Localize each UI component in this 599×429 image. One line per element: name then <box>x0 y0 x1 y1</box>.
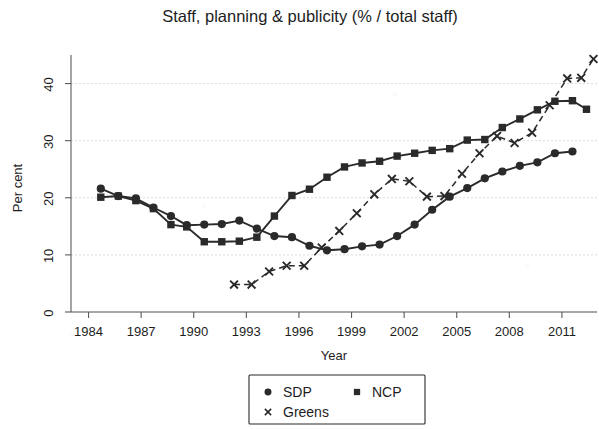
x-tick-label-1999: 1999 <box>337 324 366 339</box>
data-point-sdp-24 <box>516 162 524 170</box>
data-point-ncp-8 <box>236 237 243 244</box>
data-point-ncp-9 <box>253 233 260 240</box>
data-point-sdp-8 <box>235 217 243 225</box>
data-point-ncp-18 <box>411 150 418 157</box>
data-point-sdp-17 <box>393 232 401 240</box>
data-point-ncp-1 <box>115 192 122 199</box>
legend-marker-sdp <box>265 389 272 396</box>
data-point-sdp-12 <box>305 242 313 250</box>
data-point-ncp-7 <box>218 238 225 245</box>
x-tick-label-1987: 1987 <box>127 324 156 339</box>
data-point-ncp-20 <box>446 145 453 152</box>
data-point-ncp-4 <box>167 221 174 228</box>
data-point-sdp-18 <box>411 221 419 229</box>
staff-planning-publicity-chart: Staff, planning & publicity (% / total s… <box>0 0 599 429</box>
chart-title: Staff, planning & publicity (% / total s… <box>162 7 458 25</box>
chart-container: Staff, planning & publicity (% / total s… <box>0 0 599 429</box>
data-point-sdp-14 <box>340 245 348 253</box>
data-point-sdp-25 <box>533 158 541 166</box>
data-point-sdp-23 <box>498 167 506 175</box>
y-tick-label-20: 20 <box>41 192 56 206</box>
x-tick-label-2002: 2002 <box>390 324 419 339</box>
data-point-ncp-17 <box>393 152 400 159</box>
data-point-ncp-11 <box>288 192 295 199</box>
data-point-ncp-28 <box>583 106 590 113</box>
data-point-ncp-25 <box>534 106 541 113</box>
data-point-sdp-21 <box>463 184 471 192</box>
data-point-ncp-2 <box>132 197 139 204</box>
data-point-sdp-10 <box>270 232 278 240</box>
data-point-ncp-21 <box>464 136 471 143</box>
chart-background <box>0 0 599 429</box>
x-tick-label-2011: 2011 <box>548 324 576 339</box>
data-point-ncp-13 <box>323 174 330 181</box>
data-point-ncp-6 <box>201 238 208 245</box>
data-point-sdp-19 <box>428 206 436 214</box>
data-point-ncp-19 <box>428 147 435 154</box>
x-tick-label-2005: 2005 <box>442 324 471 339</box>
data-point-ncp-16 <box>376 158 383 165</box>
data-point-sdp-7 <box>218 220 226 228</box>
data-point-ncp-24 <box>516 115 523 122</box>
legend-marker-ncp <box>354 389 360 395</box>
legend-label-greens: Greens <box>283 404 329 420</box>
data-point-sdp-27 <box>568 147 576 155</box>
data-point-ncp-10 <box>271 212 278 219</box>
y-tick-label-0: 0 <box>41 309 56 316</box>
data-point-ncp-22 <box>481 136 488 143</box>
data-point-sdp-9 <box>253 225 261 233</box>
x-tick-label-1984: 1984 <box>74 324 103 339</box>
x-tick-label-1996: 1996 <box>284 324 313 339</box>
data-point-ncp-23 <box>499 124 506 131</box>
data-point-sdp-11 <box>288 233 296 241</box>
data-point-sdp-6 <box>200 221 208 229</box>
x-tick-label-1993: 1993 <box>232 324 261 339</box>
x-tick-label-1990: 1990 <box>179 324 208 339</box>
y-tick-label-30: 30 <box>41 134 56 148</box>
data-point-sdp-16 <box>375 241 383 249</box>
data-point-ncp-15 <box>358 159 365 166</box>
data-point-sdp-22 <box>481 174 489 182</box>
data-point-ncp-27 <box>569 97 576 104</box>
data-point-ncp-3 <box>150 205 157 212</box>
legend-label-ncp: NCP <box>372 384 402 400</box>
legend-label-sdp: SDP <box>283 384 312 400</box>
data-point-sdp-15 <box>358 242 366 250</box>
data-point-ncp-12 <box>306 186 313 193</box>
data-point-ncp-0 <box>97 194 104 201</box>
data-point-ncp-5 <box>183 223 190 230</box>
data-point-sdp-26 <box>551 149 559 157</box>
chart-legend: SDPNCPGreens <box>249 375 425 424</box>
y-axis-title: Per cent <box>10 163 25 212</box>
y-tick-label-40: 40 <box>41 77 56 91</box>
x-axis-title: Year <box>321 348 348 363</box>
y-tick-label-10: 10 <box>41 249 56 263</box>
data-point-ncp-14 <box>341 163 348 170</box>
data-point-sdp-4 <box>167 212 175 220</box>
data-point-sdp-0 <box>97 185 105 193</box>
x-tick-label-2008: 2008 <box>495 324 524 339</box>
